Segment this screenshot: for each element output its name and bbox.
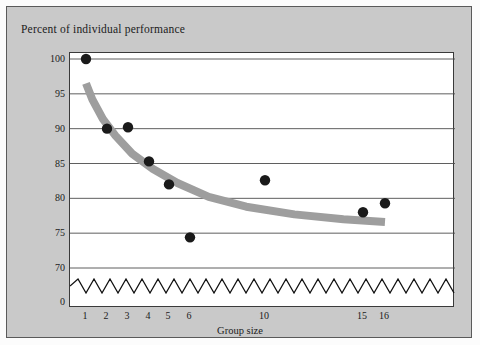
plot-svg bbox=[70, 53, 455, 308]
data-point bbox=[380, 198, 390, 208]
x-tick-label-2: 2 bbox=[104, 310, 109, 321]
x-axis-label: Group size bbox=[7, 325, 473, 336]
data-point bbox=[102, 123, 112, 133]
y-tick-label-80: 80 bbox=[31, 192, 65, 203]
figure-frame: Percent of individual performance 100959… bbox=[6, 6, 472, 338]
x-tick-label-3: 3 bbox=[125, 310, 130, 321]
y-tick-label-90: 90 bbox=[31, 122, 65, 133]
x-axis: 123456101516 bbox=[69, 310, 454, 326]
data-point bbox=[358, 207, 368, 217]
x-tick-label-4: 4 bbox=[146, 310, 151, 321]
data-point bbox=[185, 232, 195, 242]
plot-area bbox=[69, 52, 454, 307]
y-axis: 1009590858075700 bbox=[27, 52, 65, 307]
x-tick-label-6: 6 bbox=[187, 310, 192, 321]
y-tick-label-95: 95 bbox=[31, 87, 65, 98]
trend-curve bbox=[86, 83, 385, 222]
y-tick-label-100: 100 bbox=[31, 53, 65, 64]
x-tick-label-10: 10 bbox=[259, 310, 269, 321]
data-point bbox=[260, 175, 270, 185]
data-point bbox=[81, 54, 91, 64]
y-tick-label-85: 85 bbox=[31, 157, 65, 168]
x-tick-label-5: 5 bbox=[166, 310, 171, 321]
x-tick-label-16: 16 bbox=[379, 310, 389, 321]
x-tick-label-15: 15 bbox=[357, 310, 367, 321]
y-tick-label-70: 70 bbox=[31, 262, 65, 273]
data-point bbox=[123, 122, 133, 132]
data-point bbox=[164, 179, 174, 189]
y-tick-label-zero: 0 bbox=[31, 296, 65, 307]
data-point bbox=[144, 156, 154, 166]
y-axis-break-zigzag bbox=[70, 279, 454, 293]
chart-title: Percent of individual performance bbox=[21, 23, 185, 35]
x-tick-label-1: 1 bbox=[83, 310, 88, 321]
y-tick-label-75: 75 bbox=[31, 227, 65, 238]
